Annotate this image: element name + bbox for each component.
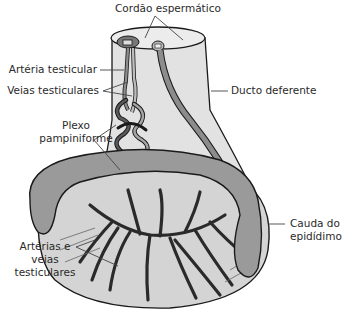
label-arterias-line3: testiculares bbox=[14, 266, 76, 279]
label-arteria-testicular: Artéria testicular bbox=[0, 63, 97, 76]
label-ducto-deferente: Ducto deferente bbox=[231, 84, 316, 97]
label-cauda-line2: epidídimo bbox=[290, 230, 342, 243]
label-veias-testiculares: Veias testiculares bbox=[0, 84, 99, 97]
label-arterias-line1: Artérias e bbox=[14, 240, 76, 253]
label-cordao-espermatico: Cordão espermático bbox=[115, 2, 221, 15]
label-cauda-line1: Cauda do bbox=[290, 217, 340, 230]
label-plexo-line1: Plexo bbox=[36, 119, 116, 132]
label-plexo-line2: pampiniforme bbox=[36, 132, 116, 145]
label-arterias-line2: veias bbox=[14, 253, 76, 266]
